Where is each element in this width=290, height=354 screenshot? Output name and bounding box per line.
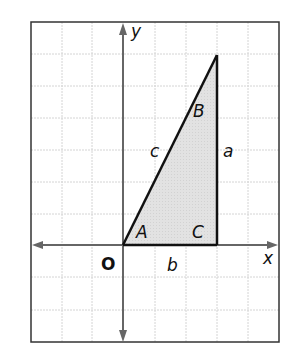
vertex-label-b: B <box>193 101 205 121</box>
side-label-b: b <box>167 255 178 275</box>
y-axis-down-arrow-icon <box>119 330 127 342</box>
vertex-label-a: A <box>135 222 148 242</box>
y-axis-label: y <box>130 21 142 41</box>
origin-label: O <box>101 254 115 274</box>
y-axis-up-arrow-icon <box>119 23 127 35</box>
side-label-a: a <box>223 141 233 161</box>
side-label-c: c <box>150 141 160 161</box>
vertex-label-c: C <box>192 222 204 242</box>
coordinate-diagram: y x O A B C a b c <box>0 0 290 354</box>
x-axis-label: x <box>262 248 274 268</box>
x-axis-left-arrow-icon <box>32 241 43 249</box>
